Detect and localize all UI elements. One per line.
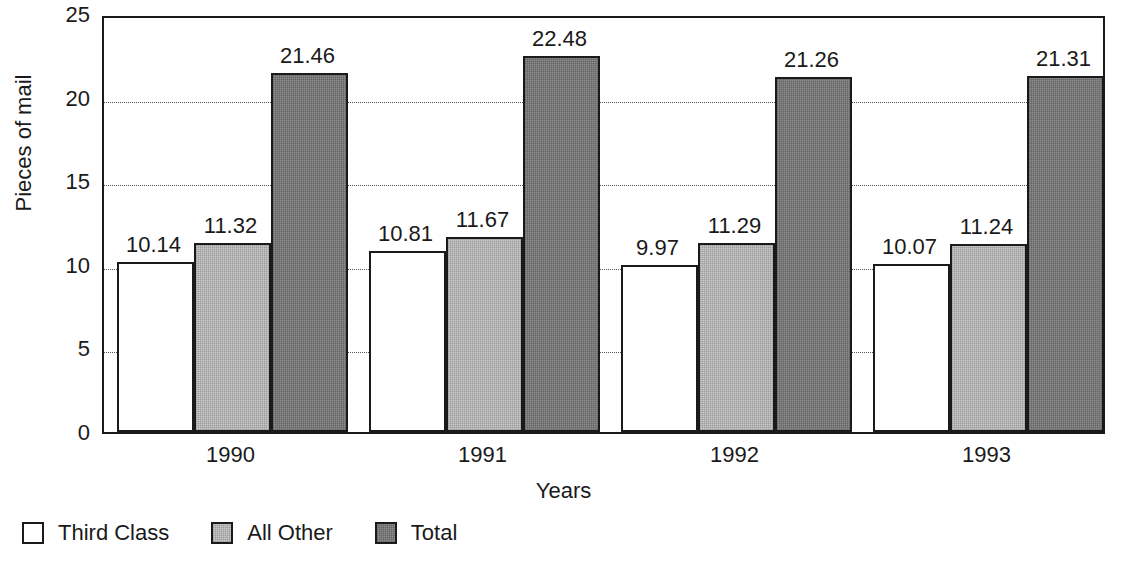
bar — [117, 262, 194, 432]
x-axis-tick-label: 1990 — [171, 443, 291, 467]
bar — [621, 265, 698, 432]
bar-value-label: 22.48 — [507, 28, 612, 50]
bar — [698, 243, 775, 432]
bar — [873, 264, 950, 432]
y-axis-tick-label: 20 — [30, 88, 90, 110]
legend-label: All Other — [247, 522, 333, 544]
legend-swatch-icon — [22, 522, 44, 544]
legend-swatch-icon — [375, 522, 397, 544]
y-axis-tick-label: 10 — [30, 255, 90, 277]
bar-value-label: 11.32 — [178, 215, 283, 237]
y-axis-tick-label: 25 — [30, 4, 90, 26]
legend-swatch-icon — [211, 522, 233, 544]
bar — [1027, 76, 1104, 432]
bar — [950, 244, 1027, 432]
y-axis-title: Pieces of mail — [11, 0, 37, 293]
y-axis-tick-label: 0 — [30, 422, 90, 444]
bar-value-label: 21.46 — [255, 45, 360, 67]
bar-value-label: 21.31 — [1011, 48, 1116, 70]
bar-value-label: 11.24 — [934, 216, 1039, 238]
bar-value-label: 10.07 — [857, 236, 962, 258]
legend-item[interactable]: All Other — [211, 522, 375, 544]
bar — [523, 56, 600, 432]
chart-legend: Third ClassAll OtherTotal — [22, 522, 499, 544]
x-axis-tick-label: 1993 — [927, 443, 1047, 467]
bar-value-label: 9.97 — [605, 237, 710, 259]
bar-chart: Pieces of mail 0510152025 10.1411.3221.4… — [0, 0, 1127, 568]
bar-value-label: 11.67 — [430, 209, 535, 231]
x-axis-tick-label: 1992 — [675, 443, 795, 467]
legend-label: Third Class — [58, 522, 169, 544]
y-axis-tick-label: 5 — [30, 338, 90, 360]
bar — [194, 243, 271, 432]
legend-item[interactable]: Third Class — [22, 522, 211, 544]
bar — [446, 237, 523, 432]
bar — [775, 77, 852, 432]
bar — [271, 73, 348, 432]
bar — [369, 251, 446, 432]
x-axis-title: Years — [0, 478, 1127, 504]
bar-value-label: 21.26 — [759, 49, 864, 71]
y-axis-tick-label: 15 — [30, 171, 90, 193]
legend-item[interactable]: Total — [375, 522, 499, 544]
bar-value-label: 11.29 — [682, 215, 787, 237]
x-axis-tick-label: 1991 — [423, 443, 543, 467]
bar-value-label: 10.14 — [101, 234, 206, 256]
legend-label: Total — [411, 522, 457, 544]
